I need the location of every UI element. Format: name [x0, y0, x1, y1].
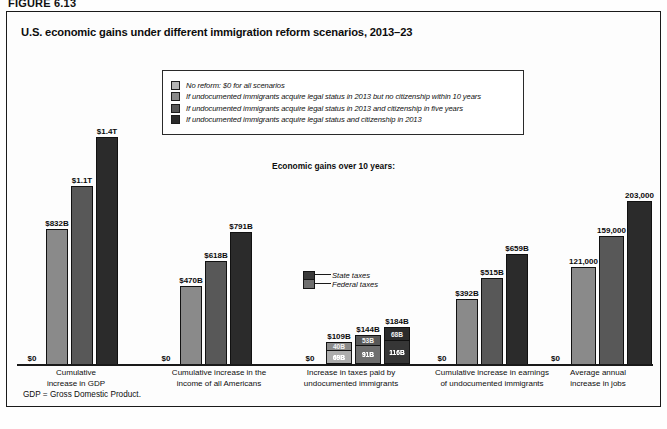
bar-rect-3-3: [506, 254, 528, 364]
bar-group-4: $0121,000159,000203,000: [543, 201, 652, 364]
bar-2-1[interactable]: 40B69B$109B: [326, 342, 352, 364]
segment-label-federal-2: 91B: [362, 351, 374, 358]
x-axis-label-line1-2: Increase in taxes paid by: [297, 368, 405, 379]
bar-value-label-1-0: $0: [162, 354, 171, 363]
bar-value-label-4-3: 203,000: [625, 191, 654, 200]
bar-group-0: $0$832B$1.1T$1.4T: [21, 137, 118, 364]
bar-0-3[interactable]: $1.4T: [96, 137, 118, 364]
x-axis-label-line2-1: income of all Americans: [155, 379, 283, 390]
x-axis-label-line1-1: Cumulative increase in the: [155, 368, 283, 379]
bar-rect-0-2: [71, 186, 93, 364]
x-axis-label-0: Cumulativeincrease in GDP: [21, 368, 131, 389]
federal-taxes-label: Federal taxes: [332, 280, 378, 290]
bar-value-label-0-0: $0: [28, 354, 37, 363]
bar-rect-1-2: [205, 261, 227, 364]
segment-label-federal-3: 116B: [389, 349, 404, 356]
segment-label-state-2: 53B: [362, 337, 374, 344]
bar-0-2[interactable]: $1.1T: [71, 186, 93, 364]
x-axis-label-2: Increase in taxes paid byundocumented im…: [297, 368, 405, 389]
bar-1-2[interactable]: $618B: [205, 261, 227, 364]
figure-footnote: GDP = Gross Domestic Product.: [23, 390, 141, 399]
bar-segment-state-3: 68B: [384, 327, 410, 341]
bar-segment-federal-1: 69B: [326, 351, 352, 364]
bar-value-label-3-1: $392B: [455, 289, 479, 298]
bar-rect-1-1: [180, 286, 202, 364]
bar-rect-0-3: [96, 137, 118, 364]
bar-value-label-3-0: $0: [438, 354, 447, 363]
segment-label-state-1: 40B: [333, 343, 345, 350]
federal-taxes-swatch: [303, 280, 315, 289]
bar-value-label-4-2: 159,000: [597, 226, 626, 235]
bar-2-2[interactable]: 53B91B$144B: [355, 335, 381, 364]
bar-segment-state-1: 40B: [326, 342, 352, 351]
bar-group-1: $0$470B$618B$791B: [155, 232, 252, 364]
source-note-cropped: [210, 414, 650, 423]
bar-2-3[interactable]: 68B116B$184B: [384, 327, 410, 364]
bar-group-2: $040B69B$109B53B91B$144B68B116B$184B: [297, 327, 410, 364]
figure-panel: U.S. economic gains under different immi…: [6, 11, 661, 407]
bar-value-label-4-0: $0: [551, 354, 560, 363]
bar-value-label-1-1: $470B: [179, 276, 203, 285]
plot-area: $0$832B$1.1T$1.4TCumulativeincrease in G…: [7, 12, 662, 408]
bar-value-label-0-3: $1.4T: [97, 127, 117, 136]
x-axis-label-line1-0: Cumulative: [21, 368, 131, 379]
x-axis-label-line2-0: increase in GDP: [21, 379, 131, 390]
bar-segment-state-2: 53B: [355, 335, 381, 346]
bar-segment-federal-3: 116B: [384, 341, 410, 364]
bar-value-label-0-1: $832B: [45, 219, 69, 228]
bar-value-label-2-3: $184B: [385, 317, 409, 326]
stacked-sub-legend: State taxes Federal taxes: [303, 270, 378, 290]
axis-baseline: [17, 364, 653, 366]
sub-legend-swatch-stack: [303, 271, 315, 289]
x-axis-label-line1-4: Average annual: [543, 368, 653, 379]
bar-1-3[interactable]: $791B: [230, 232, 252, 364]
bar-1-1[interactable]: $470B: [180, 286, 202, 364]
bar-value-label-3-3: $659B: [505, 244, 529, 253]
bar-value-label-2-2: $144B: [356, 325, 380, 334]
bar-rect-4-3: [627, 201, 652, 364]
state-taxes-swatch: [303, 271, 315, 280]
segment-label-state-3: 68B: [391, 331, 403, 338]
x-axis-label-line1-3: Cumulative increase in earnings: [431, 368, 553, 379]
bar-4-2[interactable]: 159,000: [599, 236, 624, 364]
bar-value-label-2-1: $109B: [327, 332, 351, 341]
bar-3-3[interactable]: $659B: [506, 254, 528, 364]
bar-3-2[interactable]: $515B: [481, 278, 503, 364]
bar-value-label-1-2: $618B: [204, 251, 228, 260]
bar-segment-federal-2: 91B: [355, 346, 381, 364]
bar-group-3: $0$392B$515B$659B: [431, 254, 528, 364]
x-axis-label-line2-3: of undocumented immigrants: [431, 379, 553, 390]
bar-rect-4-2: [599, 236, 624, 364]
bar-value-label-0-2: $1.1T: [72, 176, 92, 185]
segment-label-federal-1: 69B: [333, 354, 345, 361]
bar-value-label-3-2: $515B: [480, 268, 504, 277]
figure-number: FIGURE 6.13: [8, 0, 76, 9]
x-axis-label-1: Cumulative increase in theincome of all …: [155, 368, 283, 389]
bar-rect-3-1: [456, 299, 478, 364]
figure-root: FIGURE 6.13 U.S. economic gains under di…: [0, 0, 667, 429]
bar-value-label-2-0: $0: [306, 354, 315, 363]
bar-4-1[interactable]: 121,000: [571, 267, 596, 364]
state-taxes-label: State taxes: [332, 271, 378, 281]
bar-3-1[interactable]: $392B: [456, 299, 478, 364]
sub-legend-labels: State taxes Federal taxes: [332, 271, 378, 290]
bar-rect-1-3: [230, 232, 252, 364]
x-axis-label-4: Average annualincrease in jobs: [543, 368, 653, 389]
bar-4-3[interactable]: 203,000: [627, 201, 652, 364]
x-axis-label-line2-2: undocumented immigrants: [297, 379, 405, 390]
bar-rect-0-1: [46, 229, 68, 364]
bar-rect-3-2: [481, 278, 503, 364]
bar-value-label-4-1: 121,000: [569, 257, 598, 266]
bar-value-label-1-3: $791B: [229, 222, 253, 231]
bar-0-1[interactable]: $832B: [46, 229, 68, 364]
sub-legend-leader-lines: [315, 270, 331, 290]
x-axis-label-line2-4: increase in jobs: [543, 379, 653, 390]
x-axis-label-3: Cumulative increase in earningsof undocu…: [431, 368, 553, 389]
bar-rect-4-1: [571, 267, 596, 364]
